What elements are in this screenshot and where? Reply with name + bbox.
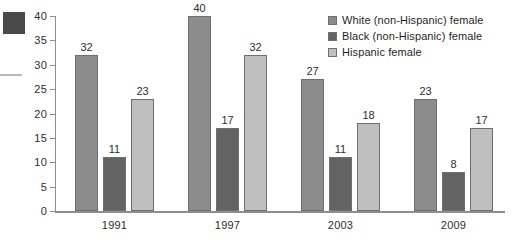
x-tick-label: 1991 [75, 219, 154, 231]
bar: 18 [357, 123, 380, 211]
y-tick-label: 35 [34, 34, 47, 46]
bar-value-label: 18 [362, 109, 374, 121]
bar: 23 [414, 99, 437, 211]
bar-value-label: 11 [109, 143, 120, 155]
legend-swatch-icon [328, 32, 337, 41]
legend-swatch-icon [328, 16, 337, 25]
legend-label: Hispanic female [342, 46, 422, 58]
bar: 32 [75, 55, 98, 211]
bar-group: 4017321997 [188, 16, 267, 211]
x-tick-label: 2003 [301, 219, 380, 231]
bar: 11 [329, 157, 352, 211]
bar-chart-figure: 0510152025303540 32112319914017321997271… [0, 0, 517, 245]
bar-value-label: 27 [306, 65, 318, 77]
bar: 40 [188, 16, 211, 211]
y-tick-label: 10 [34, 156, 47, 168]
y-tick-label: 40 [34, 10, 47, 22]
bar-value-label: 32 [80, 41, 92, 53]
y-tick-label: 30 [34, 59, 47, 71]
scan-artifact-square [3, 12, 25, 34]
bar-value-label: 23 [136, 85, 148, 97]
bar-value-label: 40 [193, 2, 205, 14]
y-tick-label: 5 [41, 181, 47, 193]
y-tick-label: 20 [34, 108, 47, 120]
legend-swatch-icon [328, 48, 337, 57]
legend-item[interactable]: Hispanic female [328, 45, 483, 59]
bar: 27 [301, 79, 324, 211]
bar: 11 [103, 157, 126, 211]
x-tick-label: 1997 [188, 219, 267, 231]
bar-value-label: 17 [475, 114, 487, 126]
bar-value-label: 32 [249, 41, 261, 53]
scan-artifact-rule [0, 74, 22, 76]
legend-label: White (non-Hispanic) female [342, 14, 483, 26]
bar: 32 [244, 55, 267, 211]
bar: 17 [470, 128, 493, 211]
x-tick-label: 2009 [414, 219, 493, 231]
legend-label: Black (non-Hispanic) female [342, 30, 482, 42]
bar: 8 [442, 172, 465, 211]
bar-group: 3211231991 [75, 16, 154, 211]
y-tick-label: 15 [34, 132, 47, 144]
legend-item[interactable]: Black (non-Hispanic) female [328, 29, 483, 43]
bar-value-label: 23 [419, 85, 431, 97]
bar: 17 [216, 128, 239, 211]
legend-item[interactable]: White (non-Hispanic) female [328, 13, 483, 27]
bar-value-label: 11 [335, 143, 346, 155]
bar-value-label: 8 [450, 158, 456, 170]
chart-legend: White (non-Hispanic) femaleBlack (non-Hi… [328, 13, 483, 61]
bar-value-label: 17 [221, 114, 233, 126]
y-tick-label: 0 [41, 205, 47, 217]
bar: 23 [131, 99, 154, 211]
y-tick-label: 25 [34, 83, 47, 95]
